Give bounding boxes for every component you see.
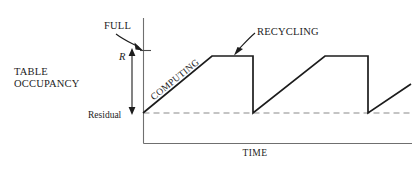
annotation-recycling-label: RECYCLING bbox=[257, 26, 319, 38]
recycling-leader-line bbox=[238, 33, 255, 50]
annotation-full-label: FULL bbox=[104, 20, 131, 32]
y-axis-title-line-2: OCCUPANCY bbox=[14, 78, 80, 90]
recycling-leader-arrowhead-icon bbox=[234, 47, 243, 56]
figure-table-occupancy-vs-time: TABLE OCCUPANCY FULL R Residual RECYCLIN… bbox=[0, 0, 418, 169]
x-axis-title: TIME bbox=[243, 148, 268, 159]
r-span-arrowhead-up-icon bbox=[129, 48, 136, 56]
full-leader-arrowhead-icon bbox=[135, 43, 144, 51]
annotation-residual-label: Residual bbox=[88, 110, 121, 121]
r-span-arrowhead-down-icon bbox=[129, 107, 136, 115]
y-axis-title: TABLE OCCUPANCY bbox=[14, 66, 80, 90]
annotation-r-label: R bbox=[119, 51, 125, 63]
y-axis-title-line-1: TABLE bbox=[14, 66, 80, 78]
